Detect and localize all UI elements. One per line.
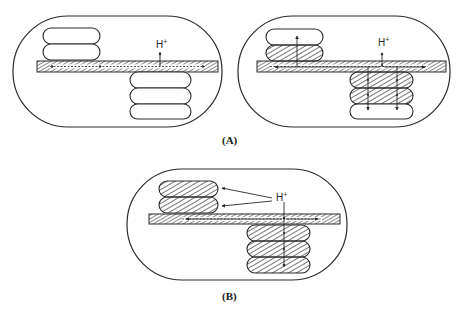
panel-b: H+ xyxy=(127,169,347,280)
granum-disc-hatched xyxy=(350,72,413,88)
granum-disc-hatched xyxy=(247,241,310,257)
panel-label-b: (B) xyxy=(222,290,237,303)
stroma-lamella xyxy=(257,61,446,72)
granum-disc-hatched xyxy=(350,88,413,104)
proton-label: H+ xyxy=(156,38,167,50)
proton-arrow xyxy=(222,188,272,198)
granum-disc-hatched xyxy=(159,197,218,213)
thylakoid-proton-diagram: H+ H+ (A) xyxy=(0,0,461,309)
proton-label: H+ xyxy=(378,36,389,48)
granum-disc-hatched xyxy=(247,225,310,241)
granum-disc-hatched xyxy=(159,181,218,197)
panel-label-a: (A) xyxy=(222,134,238,147)
stroma-lamella xyxy=(37,61,218,72)
panel-a-left: H+ xyxy=(13,16,222,127)
granum-disc xyxy=(130,88,191,104)
granum-disc xyxy=(266,29,323,45)
granum-disc xyxy=(43,28,100,44)
granum-disc xyxy=(130,104,191,119)
granum-disc xyxy=(43,44,100,60)
granum-disc xyxy=(130,72,191,88)
panel-a-right: H+ xyxy=(238,16,450,127)
granum-disc-hatched xyxy=(247,257,310,273)
proton-arrow xyxy=(222,201,272,206)
proton-label: H+ xyxy=(276,191,287,203)
granum-disc xyxy=(350,104,413,119)
granum-disc-hatched xyxy=(266,45,323,61)
